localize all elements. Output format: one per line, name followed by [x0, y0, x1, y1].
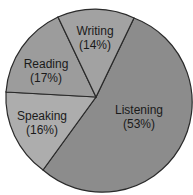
label-listening: Listening — [115, 103, 163, 117]
pct-speaking: (16%) — [26, 123, 58, 137]
pct-writing: (14%) — [79, 38, 111, 52]
pct-listening: (53%) — [123, 117, 155, 131]
label-reading: Reading — [24, 57, 69, 71]
pct-reading: (17%) — [30, 71, 62, 85]
label-speaking: Speaking — [17, 109, 67, 123]
pie-chart: Writing (14%) Reading (17%) Speaking (16… — [0, 0, 193, 195]
label-writing: Writing — [76, 24, 113, 38]
